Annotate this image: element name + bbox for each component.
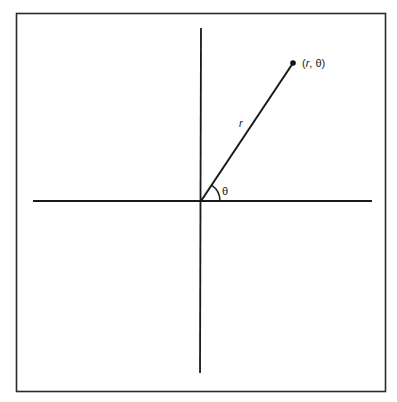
radius-label: r (239, 117, 244, 129)
radius-line (201, 63, 293, 201)
point-marker (290, 60, 296, 66)
point-label: (r, θ) (302, 57, 325, 69)
polar-coordinate-diagram: (r, θ) r θ (0, 0, 397, 402)
angle-label: θ (222, 185, 228, 197)
angle-arc (212, 185, 221, 201)
